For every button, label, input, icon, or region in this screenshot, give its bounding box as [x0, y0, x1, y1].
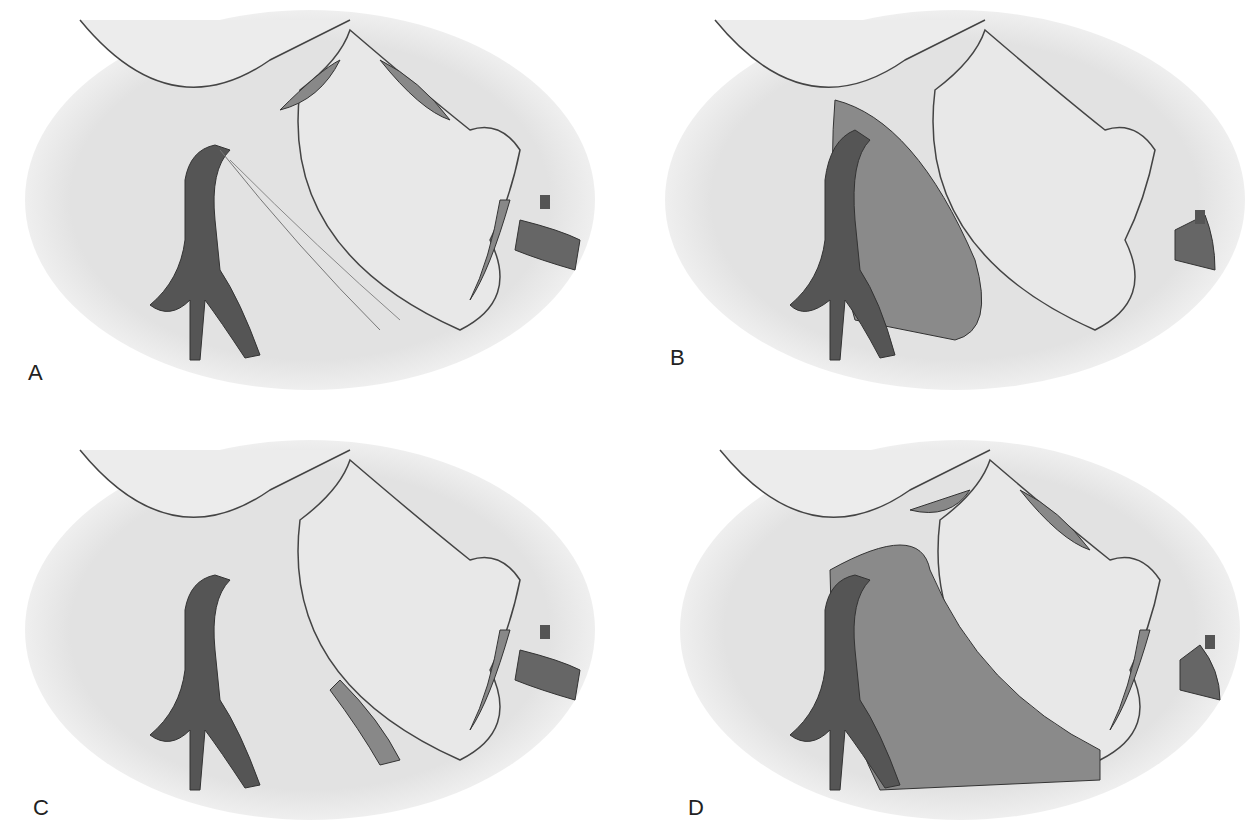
panel-label-b: B [670, 345, 685, 371]
panel-a: A [20, 0, 620, 400]
panel-label-c: C [33, 795, 49, 821]
panel-b: B [655, 0, 1255, 400]
panel-label-d: D [688, 795, 704, 821]
illustration-b [655, 0, 1255, 400]
illustration-a [20, 0, 620, 400]
illustration-d [680, 430, 1255, 830]
panel-d: D [680, 430, 1255, 830]
panel-c: C [20, 430, 620, 830]
illustration-c [20, 430, 620, 830]
panel-label-a: A [28, 360, 43, 386]
